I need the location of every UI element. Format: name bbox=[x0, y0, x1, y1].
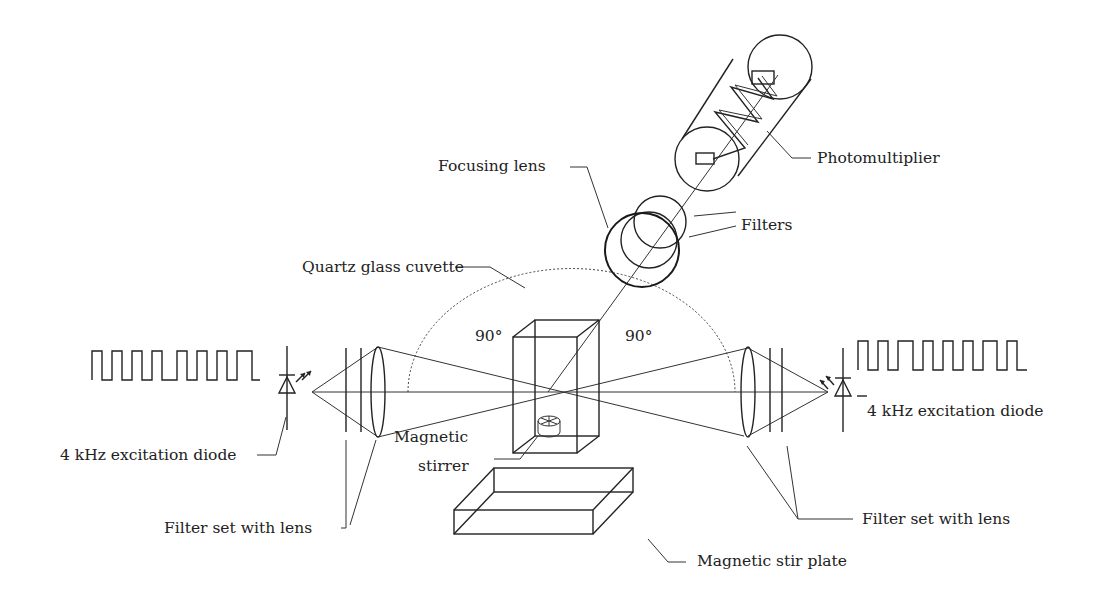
excitation-diode-left-icon bbox=[279, 346, 311, 430]
excitation-diode-right-icon bbox=[820, 348, 867, 432]
label-filters: Filters bbox=[741, 216, 792, 234]
label-cuvette: Quartz glass cuvette bbox=[302, 258, 464, 276]
square-wave-right-icon bbox=[858, 341, 1027, 370]
diode-left-leader bbox=[257, 417, 286, 455]
label-filter-set-right: Filter set with lens bbox=[862, 510, 1010, 528]
fluorescence-setup-diagram: Photomultiplier Focusing lens Filters Qu… bbox=[0, 0, 1112, 601]
stir-plate-leader bbox=[648, 539, 686, 562]
filter-set-left-leader bbox=[341, 440, 346, 528]
angle-arc bbox=[408, 269, 735, 392]
filter-set-right-leader bbox=[747, 446, 853, 519]
label-focusing-lens: Focusing lens bbox=[438, 157, 546, 175]
label-stir-plate: Magnetic stir plate bbox=[697, 552, 847, 570]
label-filter-set-left: Filter set with lens bbox=[164, 519, 312, 537]
focusing-lens bbox=[605, 213, 679, 287]
label-diode-right: 4 kHz excitation diode bbox=[867, 402, 1044, 420]
photomultiplier-tube bbox=[675, 35, 812, 191]
emission-filters bbox=[621, 196, 686, 268]
magnetic-stirrer-icon bbox=[538, 416, 560, 437]
focusing-lens-leader bbox=[570, 167, 608, 228]
label-stirrer-line2: stirrer bbox=[418, 457, 469, 475]
label-diode-left: 4 kHz excitation diode bbox=[60, 446, 237, 464]
filters-leader-2 bbox=[689, 226, 736, 237]
excitation-beams bbox=[312, 347, 828, 437]
label-photomultiplier: Photomultiplier bbox=[817, 149, 940, 167]
photomultiplier-leader bbox=[767, 131, 811, 158]
label-angle-right: 90° bbox=[625, 327, 652, 345]
square-wave-left-icon bbox=[92, 351, 260, 380]
label-stirrer-line1: Magnetic bbox=[394, 428, 468, 446]
filters-leader bbox=[694, 212, 736, 216]
label-angle-left: 90° bbox=[475, 327, 502, 345]
cuvette-leader bbox=[455, 267, 525, 288]
magnetic-stir-plate bbox=[454, 468, 633, 534]
